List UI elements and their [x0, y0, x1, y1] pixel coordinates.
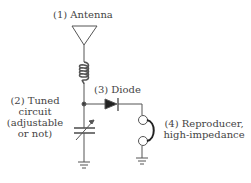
wire: [118, 104, 142, 115]
reproducer-label-line: (4) Reproducer,: [161, 118, 247, 129]
ground-symbol: [78, 162, 90, 168]
antenna-symbol: [72, 26, 97, 62]
inductor-coil: [80, 62, 89, 84]
tuned-circuit-label-line: (adjustable: [4, 117, 66, 128]
reproducer-label-line: high-impedance: [161, 129, 247, 140]
diode-label: (3) Diode: [94, 84, 141, 95]
diode-symbol: [105, 98, 118, 111]
circuit-diagram: (1) Antenna (2) Tuned circuit (adjustabl…: [0, 0, 251, 183]
ground-symbol: [136, 158, 148, 164]
antenna-label: (1) Antenna: [53, 9, 113, 20]
tuned-circuit-label-line: or not): [4, 128, 66, 139]
tuned-circuit-label-line: (2) Tuned: [4, 95, 66, 106]
tuned-circuit-label: (2) Tuned circuit (adjustable or not): [4, 95, 66, 139]
reproducer-label: (4) Reproducer, high-impedance: [161, 118, 247, 140]
earphone-reproducer: [139, 116, 154, 159]
tuned-circuit-label-line: circuit: [4, 106, 66, 117]
